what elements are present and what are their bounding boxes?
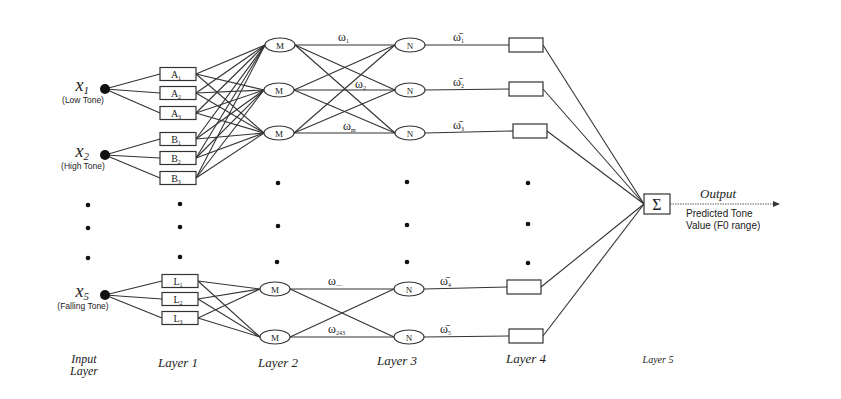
- edge-layer1-layer2: [196, 133, 264, 178]
- ellipsis-dots: [86, 180, 531, 266]
- edge-layer1-layer2: [198, 299, 260, 337]
- input-symbol-letter: x: [75, 281, 84, 301]
- layer-label: Layer 1: [157, 355, 198, 370]
- edge-input-layer1: [105, 155, 160, 158]
- ellipsis-dot: [276, 224, 281, 229]
- edge-layer4-layer5: [541, 204, 644, 287]
- weight-label: ω̄3: [453, 118, 464, 132]
- edge-input-layer1: [105, 281, 162, 295]
- ellipsis-dot: [178, 225, 183, 230]
- ellipsis-dot: [405, 223, 410, 228]
- membership-subscript: 2: [180, 300, 183, 306]
- edge-layer1-layer2: [198, 289, 260, 299]
- layer-label: Layer 4: [505, 351, 547, 366]
- edge-layer4-layer5: [543, 45, 644, 204]
- weight-label: ω̄2: [453, 75, 464, 89]
- weight-label: ω̄1: [453, 30, 464, 44]
- edge-layer1-layer2: [196, 133, 264, 158]
- input-node: [100, 150, 110, 160]
- node-label: N: [407, 129, 414, 139]
- input-symbol: x1: [75, 75, 90, 96]
- weight-label: ω̄4: [440, 274, 451, 288]
- layer-3-normalization-nodes: NNNNN: [394, 38, 425, 344]
- membership-subscript: 3: [178, 114, 181, 120]
- edge-layer3-layer4: [424, 287, 507, 289]
- output-label: Output: [700, 186, 737, 201]
- edge-layer3-layer4: [425, 131, 513, 133]
- weight-subscript: 1: [461, 38, 464, 44]
- input-symbol-letter: x: [75, 141, 84, 161]
- layer-label: Layer 2: [257, 355, 299, 370]
- edge-layer1-layer2: [198, 281, 260, 337]
- layer-label-line2: Layer: [69, 364, 98, 378]
- edge-layer3-layer4: [425, 89, 509, 90]
- input-node: [100, 290, 110, 300]
- layer-4-consequent-nodes: [507, 38, 547, 343]
- edge-layer3-layer4: [424, 336, 509, 337]
- node-label: M: [271, 285, 279, 295]
- edge-input-layer1: [105, 74, 160, 89]
- weight-subscript: 2: [363, 85, 366, 91]
- node-label: M: [276, 41, 284, 51]
- layer-2-rule-nodes: MMMMM: [260, 38, 295, 344]
- ellipsis-dot: [178, 255, 183, 260]
- ellipsis-dot: [86, 256, 91, 261]
- weight-symbol: ω: [328, 274, 336, 288]
- weight-symbol: ω: [355, 77, 363, 91]
- membership-subscript: 1: [178, 75, 181, 81]
- edge-input-layer1: [105, 155, 160, 178]
- ellipsis-dot: [276, 181, 281, 186]
- weight-symbol: ω: [328, 322, 336, 336]
- output-description-line2: Value (F0 range): [686, 220, 760, 231]
- edge-layer1-layer2: [196, 45, 265, 93]
- node-label: N: [407, 41, 414, 51]
- edge-layer4-layer5: [543, 204, 644, 336]
- edge-layer1-layer2: [198, 289, 260, 318]
- node-label: M: [271, 333, 279, 343]
- node-label: M: [275, 129, 283, 139]
- layer-label: Layer 3: [376, 353, 418, 368]
- ellipsis-dot: [526, 181, 531, 186]
- consequent-box: [513, 124, 547, 138]
- weight-symbol: ω: [338, 30, 346, 44]
- ellipsis-dot: [405, 260, 410, 265]
- ellipsis-dot: [405, 180, 410, 185]
- node-label: N: [407, 86, 414, 96]
- input-symbol: x2: [75, 141, 90, 162]
- membership-subscript: 1: [178, 140, 181, 146]
- layer-labels: InputLayerLayer 1Layer 2Layer 3Layer 4La…: [69, 351, 673, 378]
- weight-subscript: —: [335, 282, 343, 288]
- layer-label: Layer 5: [642, 354, 674, 365]
- input-tone-label: (Falling Tone): [57, 301, 109, 311]
- weight-subscript: 3: [461, 126, 464, 132]
- ellipsis-dot: [86, 226, 91, 231]
- edge-layer1-layer2: [196, 113, 264, 133]
- weight-label: ω2: [355, 77, 366, 91]
- edge-layer4-layer5: [547, 131, 644, 204]
- sigma-icon: Σ: [652, 196, 661, 213]
- consequent-box: [509, 329, 543, 343]
- membership-subscript: 2: [178, 159, 181, 165]
- weight-subscript: 5: [448, 330, 451, 336]
- weight-subscript: 243: [336, 330, 345, 336]
- arrow-head-icon: [773, 201, 780, 207]
- input-symbol: x5: [75, 281, 90, 302]
- weight-symbol: ω: [343, 119, 351, 133]
- output-section: OutputPredicted ToneValue (F0 range): [670, 186, 780, 231]
- ellipsis-dot: [86, 203, 91, 208]
- ellipsis-dot: [526, 261, 531, 266]
- ellipsis-dot: [178, 202, 183, 207]
- input-node: [100, 84, 110, 94]
- weight-subscript: 4: [448, 282, 451, 288]
- edge-layer1-layer2: [196, 45, 265, 178]
- edge-layer4-layer5: [543, 89, 644, 204]
- edge-layer1-layer2: [198, 281, 260, 289]
- input-symbol-letter: x: [75, 75, 84, 95]
- edge-layer1-layer2: [196, 90, 264, 139]
- membership-subscript: 3: [180, 319, 183, 325]
- input-tone-label: (Low Tone): [62, 95, 104, 105]
- weight-label: ωm: [343, 119, 356, 133]
- weight-label: ω—: [328, 274, 343, 288]
- output-description-line1: Predicted Tone: [686, 208, 753, 219]
- input-tone-label: (High Tone): [61, 161, 105, 171]
